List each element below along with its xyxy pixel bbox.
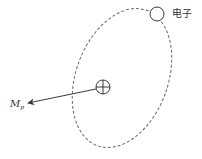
magnetic-moment-arrow [28, 89, 96, 103]
orbital-diagram: 电子 Mp [0, 0, 202, 159]
electron-label: 电子 [172, 7, 192, 19]
nucleus-icon [96, 80, 110, 94]
magnetic-moment-label: Mp [9, 98, 24, 111]
moment-subscript-label: p [20, 103, 24, 111]
moment-main-label: M [9, 98, 21, 109]
electron-orbit [54, 0, 190, 159]
electron-icon [150, 7, 164, 21]
